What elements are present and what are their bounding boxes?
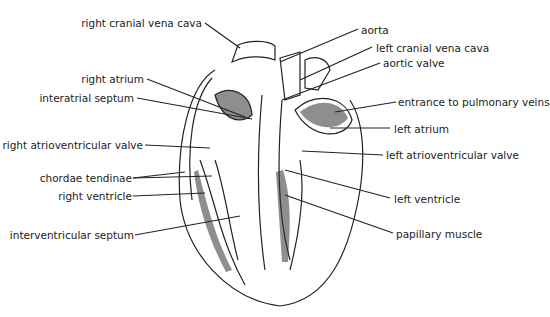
label-right-atrioventricular-valve: right atrioventricular valve — [2, 139, 143, 151]
label-right-cranial-vena-cava: right cranial vena cava — [81, 17, 202, 29]
label-interatrial-septum: interatrial septum — [39, 92, 134, 104]
label-left-atrium: left atrium — [394, 123, 449, 135]
label-interventricular-septum: interventricular septum — [10, 229, 134, 241]
label-entrance-to-pulmonary-veins: entrance to pulmonary veins — [398, 96, 550, 108]
label-papillary-muscle: papillary muscle — [396, 228, 482, 240]
label-right-ventricle: right ventricle — [58, 190, 132, 202]
label-left-cranial-vena-cava: left cranial vena cava — [376, 42, 489, 54]
label-aorta: aorta — [361, 24, 389, 36]
label-right-atrium: right atrium — [81, 73, 144, 85]
label-chordae-tendinae: chordae tendinae — [40, 172, 132, 184]
label-left-atrioventricular-valve: left atrioventricular valve — [386, 149, 519, 161]
label-aortic-valve: aortic valve — [383, 57, 445, 69]
label-left-ventricle: left ventricle — [394, 193, 460, 205]
